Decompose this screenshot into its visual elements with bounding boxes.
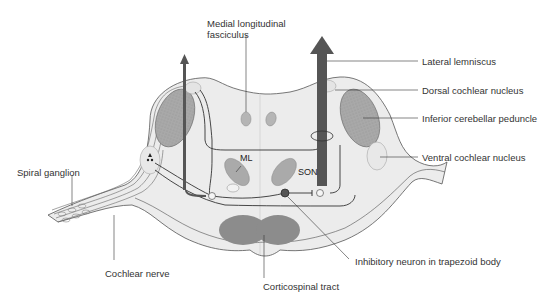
ventral-cochlear-nucleus-left: [140, 146, 160, 174]
label-dorsal-cochlear-nucleus: Dorsal cochlear nucleus: [422, 85, 523, 96]
label-inhibitory-neuron: Inhibitory neuron in trapezoid body: [355, 256, 501, 267]
label-ml: ML: [240, 153, 253, 163]
label-inferior-cerebellar-peduncle: Inferior cerebellar peduncle: [422, 113, 537, 124]
label-spiral-ganglion: Spiral ganglion: [17, 167, 80, 178]
inhibitory-neuron: [281, 189, 289, 197]
dorsal-cochlear-nucleus-left: [185, 82, 201, 94]
label-son: SON: [298, 167, 318, 177]
label-ventral-cochlear-nucleus: Ventral cochlear nucleus: [422, 152, 526, 163]
label-corticospinal-tract: Corticospinal tract: [263, 281, 339, 292]
label-lateral-lemniscus: Lateral lemniscus: [422, 56, 496, 67]
label-cochlear-nerve: Cochlear nerve: [105, 268, 169, 279]
ventral-cochlear-nucleus-right: [367, 142, 387, 170]
neuron-right-son: [317, 190, 324, 197]
auditory-pathway-diagram: [0, 0, 558, 300]
neuron-left-son: [209, 193, 216, 200]
corticospinal-tract-right: [256, 215, 300, 245]
medial-longitudinal-fasciculus-left: [241, 112, 251, 126]
label-medial-longitudinal-fasciculus: Medial longitudinal fasciculus: [207, 18, 286, 40]
small-nucleus-left: [227, 184, 239, 192]
